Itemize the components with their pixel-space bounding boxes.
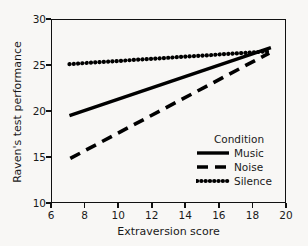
x-tick-mark	[218, 203, 220, 208]
x-tick-mark	[285, 203, 287, 208]
x-tick-label: 10	[103, 210, 133, 221]
legend-swatch-dotted-icon	[196, 175, 230, 187]
legend-entries: MusicNoiseSilence	[196, 146, 282, 188]
x-tick-mark	[117, 203, 119, 208]
x-tick-label: 20	[271, 210, 301, 221]
legend-label: Music	[234, 147, 264, 159]
y-tick-label: 15	[33, 152, 46, 163]
chart-figure: 1015202530 68101214161820 Extraversion s…	[0, 0, 308, 246]
legend-entry-noise: Noise	[196, 160, 282, 174]
x-tick-label: 18	[237, 210, 267, 221]
x-axis-title: Extraversion score	[51, 226, 286, 238]
legend: Condition MusicNoiseSilence	[196, 133, 282, 188]
y-tick-label: 25	[33, 60, 46, 71]
legend-label: Silence	[234, 175, 272, 187]
x-tick-label: 16	[204, 210, 234, 221]
legend-title: Condition	[196, 133, 282, 145]
legend-swatch-dashed-icon	[196, 161, 230, 173]
y-tick-label: 30	[33, 14, 46, 25]
x-tick-label: 14	[170, 210, 200, 221]
x-tick-label: 12	[137, 210, 167, 221]
x-tick-mark	[252, 203, 254, 208]
y-tick-label: 10	[33, 198, 46, 209]
legend-entry-silence: Silence	[196, 174, 282, 188]
x-tick-mark	[184, 203, 186, 208]
y-axis-title: Raven's test performance	[12, 20, 24, 204]
x-tick-mark	[50, 203, 52, 208]
x-tick-mark	[84, 203, 86, 208]
x-tick-label: 6	[36, 210, 66, 221]
y-tick-label: 20	[33, 106, 46, 117]
x-tick-mark	[151, 203, 153, 208]
legend-label: Noise	[234, 161, 263, 173]
x-tick-label: 8	[70, 210, 100, 221]
legend-swatch-solid-icon	[196, 147, 230, 159]
legend-entry-music: Music	[196, 146, 282, 160]
